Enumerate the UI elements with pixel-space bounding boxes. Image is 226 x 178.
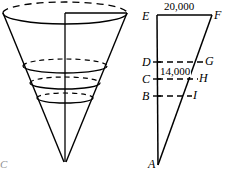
triangle-slant-side-FA [158,15,212,165]
vertex-label-I: I [193,89,197,101]
triangle-vertical-side-AE [157,15,158,165]
vertex-label-B: B [142,90,149,102]
measurement-label-14000: 14,000 [159,66,191,77]
cone-right-slant [66,13,127,162]
cone-group [3,2,127,162]
vertex-label-D: D [142,56,151,68]
triangle-group [153,15,212,165]
measurement-label-20000: 20,000 [163,1,195,12]
vertex-label-H: H [199,72,208,84]
vertex-label-A: A [148,158,155,170]
cone-top-ellipse-back-dashed [3,2,127,13]
vertex-label-F: F [214,9,221,21]
geometry-figure: C E F D G C H B I A 20,000 14,000 [0,0,226,178]
cone-edge-label-C: C [0,159,7,170]
vertex-label-E: E [142,10,149,22]
vertex-label-G: G [205,55,214,67]
vertex-label-C: C [142,73,150,85]
cone-left-slant [3,13,64,162]
